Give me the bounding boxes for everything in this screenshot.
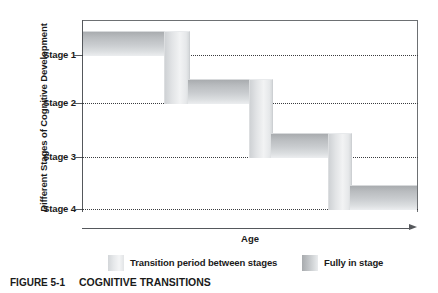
y-tick-label-stage-2: Stage 2 <box>24 98 76 108</box>
caption-title: COGNITIVE TRANSITIONS <box>79 276 211 288</box>
stage-block-fully-in-stage-1 <box>83 31 164 56</box>
legend-item-transition: Transition period between stages <box>108 254 277 271</box>
transition-block-stage-2-to-3 <box>249 79 273 158</box>
y-tick-label-stage-4: Stage 4 <box>24 204 76 214</box>
legend-item-fully-in-stage: Fully in stage <box>302 254 383 271</box>
plot-area <box>82 20 418 212</box>
y-axis-title: Different Stages of Cognitive Developmen… <box>38 13 49 223</box>
y-tick-label-stage-3: Stage 3 <box>24 152 76 162</box>
x-axis-line <box>82 228 412 229</box>
y-tick-label-stage-1: Stage 1 <box>24 50 76 60</box>
stage-block-fully-in-stage-2 <box>188 79 249 104</box>
stage-block-fully-in-stage-4 <box>350 185 417 210</box>
figure-container: Different Stages of Cognitive Developmen… <box>0 0 438 293</box>
transition-block-stage-3-to-4 <box>328 133 352 210</box>
transition-block-stage-1-to-2 <box>164 31 190 104</box>
x-axis-title: Age <box>82 233 418 244</box>
legend-swatch-transition-icon <box>108 255 124 271</box>
stage-block-fully-in-stage-3 <box>271 133 328 158</box>
x-axis-arrow-icon <box>409 224 417 230</box>
legend-label-transition: Transition period between stages <box>130 257 277 268</box>
legend-label-fully-in-stage: Fully in stage <box>324 257 383 268</box>
chart-legend: Transition period between stages Fully i… <box>108 254 418 272</box>
plot-frame-right-border <box>417 20 418 212</box>
legend-swatch-fully-in-stage-icon <box>302 255 318 271</box>
plot-frame-top-border <box>82 20 418 21</box>
figure-caption: FIGURE 5-1 COGNITIVE TRANSITIONS <box>10 276 211 288</box>
caption-figure-number: FIGURE 5-1 <box>10 277 65 288</box>
